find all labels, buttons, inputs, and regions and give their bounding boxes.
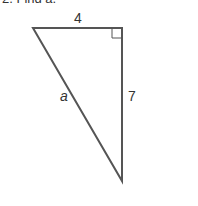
triangle — [33, 28, 122, 181]
right-side-label: 7 — [128, 88, 136, 104]
top-side-label: 4 — [74, 10, 82, 26]
hypotenuse-label: a — [60, 88, 68, 104]
right-triangle-figure — [0, 0, 198, 206]
right-angle-marker-icon — [112, 28, 122, 38]
